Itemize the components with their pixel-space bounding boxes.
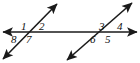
angle-label-1: 1	[21, 21, 27, 32]
angle-label-3: 3	[99, 21, 105, 32]
angle-label-4: 4	[117, 21, 123, 32]
geometry-figure: 1 2 3 4 5 6 7 8	[0, 0, 140, 63]
angle-label-5: 5	[105, 34, 111, 45]
angle-label-7: 7	[26, 34, 32, 45]
angle-label-2: 2	[39, 21, 45, 32]
angle-label-8: 8	[11, 34, 17, 45]
angle-label-6: 6	[90, 34, 96, 45]
